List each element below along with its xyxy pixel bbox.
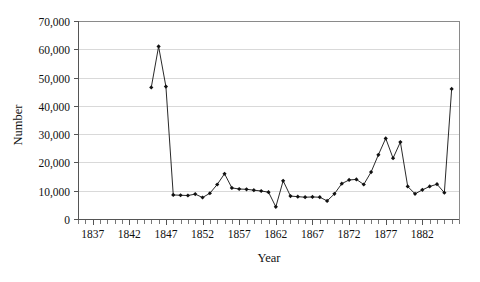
x-tick-label: 1877 — [374, 228, 397, 240]
x-tick-label: 1857 — [228, 228, 251, 240]
x-tick-label: 1837 — [81, 228, 104, 240]
x-tick-label: 1882 — [411, 228, 434, 240]
line-chart: 1837184218471852185718621867187218771882… — [0, 0, 480, 282]
y-tick-label: 40,000 — [38, 101, 70, 114]
y-tick-label: 10,000 — [38, 186, 70, 199]
x-tick-label: 1847 — [154, 228, 177, 240]
y-tick-label: 50,000 — [38, 73, 70, 86]
chart-figure: 1837184218471852185718621867187218771882… — [0, 0, 480, 282]
x-tick-label: 1872 — [338, 228, 361, 240]
x-tick-label: 1862 — [264, 228, 287, 240]
y-tick-label: 70,000 — [38, 16, 70, 29]
x-axis-title: Year — [257, 251, 281, 265]
y-tick-label: 60,000 — [38, 44, 70, 57]
x-tick-label: 1867 — [301, 228, 324, 240]
y-tick-label: 30,000 — [38, 129, 70, 142]
x-tick-label: 1842 — [118, 228, 141, 240]
y-axis-title: Number — [11, 104, 25, 146]
y-tick-label: 20,000 — [38, 157, 70, 170]
y-tick-label: 0 — [64, 214, 70, 226]
x-tick-label: 1852 — [191, 228, 214, 240]
